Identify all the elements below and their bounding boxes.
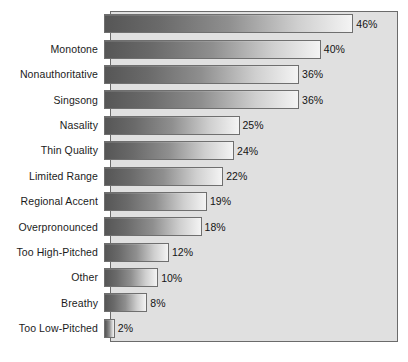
bar-value-label: 8% bbox=[150, 298, 165, 309]
bar: 19% bbox=[104, 192, 207, 211]
bar: 18% bbox=[104, 217, 202, 236]
bar-row: Nasality25% bbox=[0, 113, 408, 138]
bar-rows-container: 46%Monotone40%Nonauthoritative36%Singson… bbox=[0, 11, 408, 342]
bar: 24% bbox=[104, 141, 234, 160]
bar-row: Other10% bbox=[0, 265, 408, 290]
bar: 8% bbox=[104, 293, 147, 312]
category-label: Nonauthoritative bbox=[0, 69, 104, 80]
category-label: Overpronounced bbox=[0, 222, 104, 233]
bar-row: Regional Accent19% bbox=[0, 189, 408, 214]
category-label: Regional Accent bbox=[0, 196, 104, 207]
bar-value-label: 2% bbox=[118, 323, 133, 334]
category-label: Thin Quality bbox=[0, 145, 104, 156]
bar: 12% bbox=[104, 243, 169, 262]
bar-row: Too Low-Pitched2% bbox=[0, 316, 408, 341]
bar: 2% bbox=[104, 319, 115, 338]
category-label: Too High-Pitched bbox=[0, 247, 104, 258]
bar-value-label: 18% bbox=[205, 222, 226, 233]
bar-row: Too High-Pitched12% bbox=[0, 240, 408, 265]
bar-track: 18% bbox=[104, 214, 408, 239]
bar-track: 24% bbox=[104, 138, 408, 163]
category-label: Limited Range bbox=[0, 171, 104, 182]
category-label: Breathy bbox=[0, 298, 104, 309]
category-label: Monotone bbox=[0, 44, 104, 55]
bar-track: 36% bbox=[104, 87, 408, 112]
bar-row: Limited Range22% bbox=[0, 163, 408, 188]
bar-row: Singsong36% bbox=[0, 87, 408, 112]
bar-track: 19% bbox=[104, 189, 408, 214]
category-label: Too Low-Pitched bbox=[0, 323, 104, 334]
bar: 36% bbox=[104, 90, 299, 109]
bar-value-label: 36% bbox=[302, 95, 323, 106]
bar-track: 12% bbox=[104, 240, 408, 265]
bar-value-label: 24% bbox=[237, 145, 258, 156]
bar: 46% bbox=[104, 14, 353, 33]
category-label: Other bbox=[0, 272, 104, 283]
bar-value-label: 40% bbox=[324, 44, 345, 55]
bar-value-label: 36% bbox=[302, 69, 323, 80]
bar-value-label: 10% bbox=[161, 272, 182, 283]
bar-track: 10% bbox=[104, 265, 408, 290]
bar-track: 36% bbox=[104, 62, 408, 87]
bar: 36% bbox=[104, 65, 299, 84]
category-label: Singsong bbox=[0, 95, 104, 106]
bar-track: 46% bbox=[104, 11, 408, 36]
bar-track: 40% bbox=[104, 36, 408, 61]
bar: 25% bbox=[104, 116, 240, 135]
bar: 22% bbox=[104, 167, 223, 186]
bar-value-label: 19% bbox=[210, 196, 231, 207]
bar-track: 25% bbox=[104, 113, 408, 138]
bar-row: Breathy8% bbox=[0, 290, 408, 315]
bar-track: 2% bbox=[104, 316, 408, 341]
bar-value-label: 46% bbox=[356, 18, 377, 29]
bar-track: 8% bbox=[104, 290, 408, 315]
bar-row: 46% bbox=[0, 11, 408, 36]
category-label: Nasality bbox=[0, 120, 104, 131]
bar-track: 22% bbox=[104, 163, 408, 188]
bar: 10% bbox=[104, 268, 158, 287]
bar-row: Monotone40% bbox=[0, 36, 408, 61]
bar: 40% bbox=[104, 40, 321, 59]
bar-chart-figure: 46%Monotone40%Nonauthoritative36%Singson… bbox=[0, 0, 408, 362]
bar-row: Thin Quality24% bbox=[0, 138, 408, 163]
bar-value-label: 22% bbox=[226, 171, 247, 182]
bar-value-label: 12% bbox=[172, 247, 193, 258]
bar-value-label: 25% bbox=[243, 120, 264, 131]
bar-row: Overpronounced18% bbox=[0, 214, 408, 239]
bar-row: Nonauthoritative36% bbox=[0, 62, 408, 87]
